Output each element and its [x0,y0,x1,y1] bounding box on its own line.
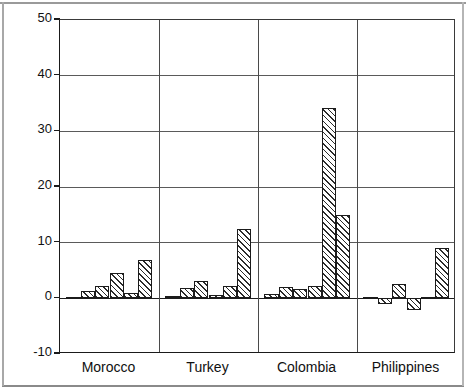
bar [378,298,392,304]
bar [336,215,350,299]
bar [81,291,95,299]
x-group-label-colombia: Colombia [257,359,356,375]
bar [180,288,194,298]
bar [237,229,251,299]
x-group-label-turkey: Turkey [158,359,257,375]
bar [293,289,307,298]
y-tick-label-10: 10 [10,233,52,248]
gridline-40 [60,75,454,76]
bar [421,297,435,299]
bar [209,295,223,298]
y-tick-label-30: 30 [10,121,52,136]
group-separator-1 [159,20,160,352]
gridline-10 [60,242,454,243]
bar [223,286,237,298]
bar [165,296,179,299]
bar [322,108,336,298]
bar [435,248,449,298]
bar [308,286,322,298]
page-edge-rule-left [2,2,4,386]
bar [407,298,421,310]
bar [110,273,124,299]
bar [124,293,138,299]
group-separator-3 [357,20,358,352]
y-tick-label--10: -10 [10,344,52,359]
bar [138,260,152,298]
bar [392,284,406,298]
bar [194,281,208,298]
gridline-30 [60,131,454,132]
chart-figure: FDI, in US $ per capita 50403020100-10 M… [0,0,466,390]
gridline-20 [60,187,454,188]
y-tick-label-40: 40 [10,66,52,81]
page-edge-rule-right [462,2,464,386]
bar [279,287,293,299]
bar [363,297,377,299]
y-tick-label-20: 20 [10,177,52,192]
bar [264,294,278,298]
x-group-label-morocco: Morocco [59,359,158,375]
x-group-label-philippines: Philippines [356,359,455,375]
group-separator-2 [258,20,259,352]
y-tick-label-0: 0 [10,288,52,303]
plot-area [59,19,455,353]
y-tick-label-50: 50 [10,10,52,25]
bar [66,297,80,299]
bar [95,286,109,298]
page-edge-rule-bottom [2,385,464,387]
page-edge-rule-top [0,2,466,4]
